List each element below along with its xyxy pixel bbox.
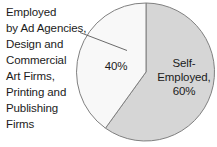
callout-line: Firms bbox=[6, 116, 98, 132]
callout-line: by Ad Agencies, bbox=[6, 20, 98, 36]
callout-line: Employed bbox=[6, 4, 98, 20]
callout-label-employed-by-firms: Employed by Ad Agencies, Design and Comm… bbox=[6, 4, 98, 132]
callout-line: Commercial bbox=[6, 52, 98, 68]
callout-line: Art Firms, bbox=[6, 68, 98, 84]
slice-label-line: 60% bbox=[154, 84, 214, 98]
slice-value-label-self-employed: Self- Employed, 60% bbox=[154, 56, 214, 98]
callout-line: Design and bbox=[6, 36, 98, 52]
slice-value-label-40: 40% bbox=[96, 59, 136, 73]
callout-line: Printing and bbox=[6, 84, 98, 100]
slice-label-line: Self- bbox=[154, 56, 214, 70]
slice-label-line: Employed, bbox=[154, 70, 214, 84]
slice-label-line: 40% bbox=[96, 59, 136, 73]
pie-chart-figure: Employed by Ad Agencies, Design and Comm… bbox=[0, 0, 217, 147]
callout-line: Publishing bbox=[6, 100, 98, 116]
